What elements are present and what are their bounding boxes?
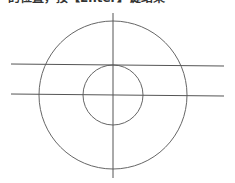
cad-drawing-canvas: 的位置，按【Enter】键结束 xyxy=(0,0,235,183)
lower-horizontal-line xyxy=(11,94,224,96)
geometry-drawing xyxy=(0,0,235,183)
